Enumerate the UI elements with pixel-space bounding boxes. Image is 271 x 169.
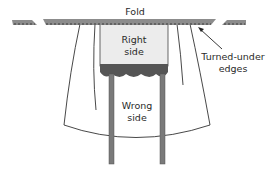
- right-side-label-line1: Right: [121, 34, 146, 45]
- turned-under-label-line2: edges: [219, 63, 248, 74]
- turned-under-arrow: [198, 27, 222, 49]
- fold-bar: [43, 19, 216, 25]
- right-fold-piece: [222, 20, 246, 25]
- left-post: [109, 74, 114, 164]
- fold-label: Fold: [125, 6, 145, 17]
- wrong-side-label-line2: side: [127, 112, 147, 123]
- left-fold-piece: [12, 20, 37, 25]
- right-post: [160, 74, 165, 164]
- diagram-canvas: Fold Right side Wrong side Turned-under …: [0, 0, 271, 169]
- fabric-fold-diagram: Fold Right side Wrong side Turned-under …: [0, 0, 271, 169]
- turned-under-label-line1: Turned-under: [200, 51, 264, 62]
- right-side-label-line2: side: [124, 46, 144, 57]
- wrong-side-label-line1: Wrong: [122, 100, 153, 111]
